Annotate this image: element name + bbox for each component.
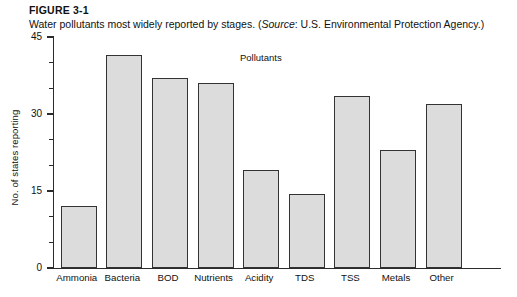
y-tick-major [47, 36, 54, 37]
figure-container: FIGURE 3-1 Water pollutants most widely … [0, 0, 517, 297]
y-tick-label: 15 [0, 185, 42, 196]
y-tick-minor [49, 62, 54, 63]
chart-annotation-pollutants: Pollutants [240, 52, 282, 63]
y-tick-label: 0 [0, 262, 42, 273]
bar-nutrients [198, 83, 234, 268]
x-label-other: Other [411, 272, 473, 283]
y-tick-major [47, 113, 54, 114]
y-tick-minor [49, 242, 54, 243]
bar-metals [380, 150, 416, 268]
bar-acidity [243, 170, 279, 268]
y-tick-label: 45 [0, 31, 42, 42]
bar-other [426, 104, 462, 268]
y-axis-title: No. of states reporting [9, 83, 20, 233]
bar-ammonia [61, 206, 97, 268]
bar-bod [152, 78, 188, 268]
y-tick-minor [49, 139, 54, 140]
x-axis-line [53, 268, 501, 269]
y-tick-minor [49, 88, 54, 89]
bar-bacteria [106, 55, 142, 268]
bar-tds [289, 194, 325, 268]
y-tick-minor [49, 165, 54, 166]
y-tick-major [47, 267, 54, 268]
y-tick-label: 30 [0, 108, 42, 119]
y-axis-line [53, 37, 54, 269]
bar-chart-plot: 0153045 No. of states reporting Pollutan… [0, 0, 517, 297]
y-tick-minor [49, 216, 54, 217]
y-tick-major [47, 190, 54, 191]
bar-tss [334, 96, 370, 268]
